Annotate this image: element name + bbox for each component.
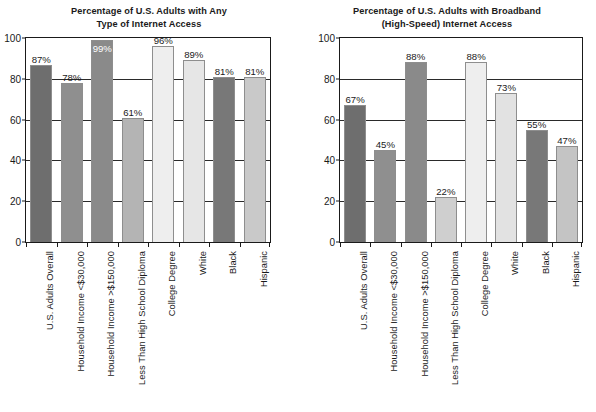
bar-group: 22%Less Than High School Diploma xyxy=(431,38,461,242)
x-axis-category-label: Hispanic xyxy=(259,251,269,287)
bar[interactable]: 73% xyxy=(495,93,517,242)
bar-group: 88%College Degree xyxy=(461,38,491,242)
y-axis-tick-label: 100 xyxy=(318,33,340,44)
x-axis-tick-mark xyxy=(240,242,241,247)
x-axis-tick-mark xyxy=(118,242,119,247)
y-axis-tick-label: 0 xyxy=(329,237,340,248)
x-axis-category-label: Household Income <$30,000 xyxy=(76,251,86,371)
y-axis-tick-label: 20 xyxy=(324,196,340,207)
bar-value-label: 67% xyxy=(346,94,365,105)
x-axis-category-label: Less Than High School Diploma xyxy=(137,251,147,385)
chart-title: Percentage of U.S. Adults with Broadband… xyxy=(298,5,596,30)
bar[interactable]: 55% xyxy=(526,130,548,242)
bar-value-label: 47% xyxy=(557,135,576,146)
chart-title-line-2: Type of Internet Access xyxy=(0,18,298,31)
bar-value-label: 87% xyxy=(32,54,51,65)
bar[interactable]: 61% xyxy=(122,118,144,242)
x-axis-category-label: Hispanic xyxy=(571,251,581,287)
bar[interactable]: 81% xyxy=(213,77,235,242)
bar-value-label: 88% xyxy=(467,51,486,62)
x-axis-tick-mark xyxy=(461,242,462,247)
bar[interactable]: 47% xyxy=(556,146,578,242)
bar-group: 67%U.S. Adults Overall xyxy=(340,38,370,242)
bar-group: 87%U.S. Adults Overall xyxy=(26,38,57,242)
x-axis-category-label: White xyxy=(510,251,520,275)
x-axis-tick-mark xyxy=(431,242,432,247)
x-axis-category-label: College Degree xyxy=(480,251,490,316)
x-axis-category-label: Less Than High School Diploma xyxy=(450,251,460,385)
x-axis-tick-mark xyxy=(87,242,88,247)
bar-value-label: 96% xyxy=(154,35,173,46)
x-axis-tick-mark xyxy=(179,242,180,247)
x-axis-tick-mark xyxy=(26,242,27,247)
x-axis-tick-mark xyxy=(552,242,553,247)
bar-group: 78%Household Income <$30,000 xyxy=(57,38,88,242)
bar[interactable]: 89% xyxy=(183,60,205,242)
bar-group: 47%Hispanic xyxy=(552,38,582,242)
bar[interactable]: 88% xyxy=(465,62,487,242)
bar[interactable]: 87% xyxy=(30,65,52,242)
bar[interactable]: 22% xyxy=(435,197,457,242)
x-axis-category-label: Black xyxy=(541,251,551,274)
x-axis-category-label: U.S. Adults Overall xyxy=(45,251,55,330)
bar-value-label: 22% xyxy=(436,186,455,197)
bar[interactable]: 67% xyxy=(344,105,366,242)
bar-value-label: 78% xyxy=(62,72,81,83)
bar-group: 96%College Degree xyxy=(148,38,179,242)
chart-title-line-2: (High-Speed) Internet Access xyxy=(298,18,596,31)
x-axis-tick-mark xyxy=(581,242,582,247)
chart-title-line-1: Percentage of U.S. Adults with Broadband xyxy=(298,5,596,18)
bar-value-label: 99% xyxy=(93,43,112,54)
x-axis-tick-mark xyxy=(209,242,210,247)
bar-value-label: 55% xyxy=(527,119,546,130)
y-axis-tick-label: 80 xyxy=(10,73,26,84)
plot-area: 020406080100 87%U.S. Adults Overall78%Ho… xyxy=(25,37,271,243)
x-axis-tick-mark xyxy=(401,242,402,247)
figure-canvas: Percentage of U.S. Adults with Any Type … xyxy=(0,0,596,412)
x-axis-category-label: Household Income <$30,000 xyxy=(389,251,399,371)
bar-value-label: 81% xyxy=(245,66,264,77)
y-axis-tick-label: 60 xyxy=(324,114,340,125)
bar[interactable]: 45% xyxy=(374,150,396,242)
x-axis-tick-mark xyxy=(491,242,492,247)
bar-group: 55%Black xyxy=(522,38,552,242)
y-axis-tick-label: 100 xyxy=(4,33,26,44)
y-axis-tick-label: 80 xyxy=(324,73,340,84)
bar-group: 81%Hispanic xyxy=(240,38,271,242)
bar[interactable]: 88% xyxy=(405,62,427,242)
x-axis-tick-mark xyxy=(148,242,149,247)
bar-value-label: 89% xyxy=(184,49,203,60)
bar-series: 67%U.S. Adults Overall45%Household Incom… xyxy=(340,38,582,242)
chart-title: Percentage of U.S. Adults with Any Type … xyxy=(0,5,298,30)
bar-value-label: 61% xyxy=(123,107,142,118)
bar[interactable]: 81% xyxy=(244,77,266,242)
x-axis-category-label: Household Income >$150,000 xyxy=(106,251,116,377)
bar-group: 81%Black xyxy=(209,38,240,242)
bar-group: 89%White xyxy=(179,38,210,242)
y-axis-tick-label: 60 xyxy=(10,114,26,125)
x-axis-tick-mark xyxy=(340,242,341,247)
bar-group: 99%Household Income >$150,000 xyxy=(87,38,118,242)
bar[interactable]: 96% xyxy=(152,46,174,242)
x-axis-category-label: White xyxy=(198,251,208,275)
y-axis-tick-label: 40 xyxy=(10,155,26,166)
x-axis-category-label: Black xyxy=(228,251,238,274)
chart-panel-broadband-access: Percentage of U.S. Adults with Broadband… xyxy=(298,0,596,412)
chart-panel-any-internet-access: Percentage of U.S. Adults with Any Type … xyxy=(0,0,298,412)
bar-value-label: 81% xyxy=(215,66,234,77)
x-axis-tick-mark xyxy=(57,242,58,247)
y-axis-tick-label: 20 xyxy=(10,196,26,207)
bar-value-label: 88% xyxy=(406,51,425,62)
y-axis-tick-label: 0 xyxy=(15,237,26,248)
bar-value-label: 73% xyxy=(497,82,516,93)
x-axis-tick-mark xyxy=(522,242,523,247)
bar[interactable]: 78% xyxy=(61,83,83,242)
bar-group: 61%Less Than High School Diploma xyxy=(118,38,149,242)
y-axis-tick-label: 40 xyxy=(324,155,340,166)
bar[interactable]: 99% xyxy=(91,40,113,242)
bar-group: 88%Household Income >$150,000 xyxy=(401,38,431,242)
bar-group: 45%Household Income <$30,000 xyxy=(370,38,400,242)
plot-area: 020406080100 67%U.S. Adults Overall45%Ho… xyxy=(339,37,583,243)
chart-title-line-1: Percentage of U.S. Adults with Any xyxy=(0,5,298,18)
x-axis-category-label: Household Income >$150,000 xyxy=(420,251,430,377)
